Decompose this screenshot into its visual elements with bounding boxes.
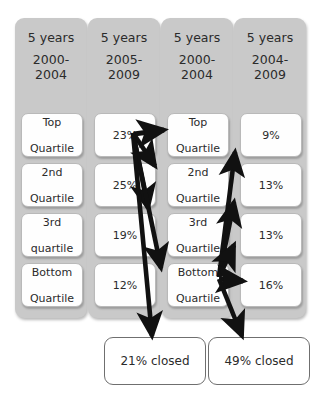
cell-col3-row4-line2: Quartile bbox=[176, 292, 220, 305]
cell-col1-row4-line2: Quartile bbox=[30, 292, 74, 305]
column-header-2-period: 5 years bbox=[88, 18, 160, 46]
cell-col1-row1-line2: Quartile bbox=[30, 142, 74, 155]
cell-col1-row3-line2: quartile bbox=[31, 242, 73, 255]
cell-col2-row2[interactable]: 25% bbox=[94, 163, 156, 207]
cell-col1-row2[interactable]: 2nd Quartile bbox=[21, 163, 83, 207]
column-header-3-years-top: 2000- bbox=[161, 46, 233, 67]
cell-col3-row2[interactable]: 2nd Quartile bbox=[167, 163, 229, 207]
cell-col2-row4-value: 12% bbox=[113, 279, 137, 292]
column-header-1: 5 years 2000- 2004 bbox=[15, 18, 87, 82]
cell-col1-row3-line1: 3rd bbox=[31, 216, 73, 229]
cell-col3-row3-line1: 3rd bbox=[176, 216, 220, 229]
cell-col4-row4-value: 16% bbox=[259, 279, 283, 292]
cell-col1-row1[interactable]: Top Quartile bbox=[21, 113, 83, 157]
cell-col2-row1-value: 23% bbox=[113, 129, 137, 142]
cell-col4-row3-value: 13% bbox=[259, 229, 283, 242]
cell-col3-row4[interactable]: Bottom Quartile bbox=[167, 263, 229, 307]
column-header-1-years-top: 2000- bbox=[15, 46, 87, 67]
column-header-1-period: 5 years bbox=[15, 18, 87, 46]
cell-col4-row1[interactable]: 9% bbox=[240, 113, 302, 157]
cell-col2-row1[interactable]: 23% bbox=[94, 113, 156, 157]
column-header-4-period: 5 years bbox=[234, 18, 306, 46]
cell-col4-row1-value: 9% bbox=[262, 129, 279, 142]
cell-col2-row3[interactable]: 19% bbox=[94, 213, 156, 257]
column-header-3-period: 5 years bbox=[161, 18, 233, 46]
diagram-canvas: 5 years 2000- 2004 5 years 2005- 2009 5 … bbox=[0, 0, 313, 399]
cell-col1-row3[interactable]: 3rd quartile bbox=[21, 213, 83, 257]
cell-col3-row2-line1: 2nd bbox=[176, 166, 220, 179]
cell-col4-row2[interactable]: 13% bbox=[240, 163, 302, 207]
cell-col3-row1-line2: Quartile bbox=[176, 142, 220, 155]
column-header-2-years-bottom: 2009 bbox=[88, 67, 160, 82]
column-header-4: 5 years 2004- 2009 bbox=[234, 18, 306, 82]
watermark-artifact bbox=[291, 266, 305, 280]
cell-col3-row1[interactable]: Top Quartile bbox=[167, 113, 229, 157]
cell-col1-row2-line2: Quartile bbox=[30, 192, 74, 205]
column-header-2-years-top: 2005- bbox=[88, 46, 160, 67]
cell-col3-row3-line2: Quartile bbox=[176, 242, 220, 255]
closed-box-right[interactable]: 49% closed bbox=[208, 337, 310, 385]
cell-col1-row2-line1: 2nd bbox=[30, 166, 74, 179]
closed-box-left[interactable]: 21% closed bbox=[104, 337, 206, 385]
cell-col1-row4-line1: Bottom bbox=[30, 266, 74, 279]
cell-col4-row2-value: 13% bbox=[259, 179, 283, 192]
column-header-2: 5 years 2005- 2009 bbox=[88, 18, 160, 82]
column-header-4-years-bottom: 2009 bbox=[234, 67, 306, 82]
cell-col2-row4[interactable]: 12% bbox=[94, 263, 156, 307]
cell-col4-row3[interactable]: 13% bbox=[240, 213, 302, 257]
cell-col3-row3[interactable]: 3rd Quartile bbox=[167, 213, 229, 257]
cell-col1-row4[interactable]: Bottom Quartile bbox=[21, 263, 83, 307]
column-header-4-years-top: 2004- bbox=[234, 46, 306, 67]
cell-col3-row2-line2: Quartile bbox=[176, 192, 220, 205]
cell-col1-row1-line1: Top bbox=[30, 116, 74, 129]
cell-col2-row2-value: 25% bbox=[113, 179, 137, 192]
cell-col2-row3-value: 19% bbox=[113, 229, 137, 242]
column-header-1-years-bottom: 2004 bbox=[15, 67, 87, 82]
column-header-3-years-bottom: 2004 bbox=[161, 67, 233, 82]
cell-col3-row4-line1: Bottom bbox=[176, 266, 220, 279]
column-header-3: 5 years 2000- 2004 bbox=[161, 18, 233, 82]
closed-box-left-label: 21% closed bbox=[120, 354, 189, 368]
closed-box-right-label: 49% closed bbox=[224, 354, 293, 368]
cell-col3-row1-line1: Top bbox=[176, 116, 220, 129]
